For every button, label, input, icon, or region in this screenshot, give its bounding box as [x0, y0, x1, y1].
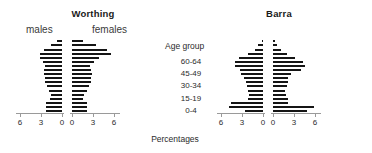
- age-group-tick-label: 30-34: [171, 81, 211, 90]
- bar-male: [50, 98, 62, 100]
- bar-female: [72, 90, 87, 92]
- bar-male: [248, 53, 263, 55]
- age-group-tick-label: 45-49: [171, 69, 211, 78]
- bar-female: [273, 49, 281, 51]
- bar-male: [258, 44, 263, 46]
- bar-male: [245, 110, 263, 112]
- bar-male: [244, 77, 263, 79]
- bar-male: [247, 85, 263, 87]
- bar-male: [46, 106, 62, 108]
- bar-male: [240, 69, 263, 71]
- bar-male: [241, 73, 263, 75]
- bar-male: [44, 73, 62, 75]
- axis-tick-label: 6: [214, 118, 228, 127]
- axis-tick-label: 3: [287, 118, 301, 127]
- bar-male: [246, 81, 264, 83]
- axis-tick-label: 6: [13, 118, 27, 127]
- bar-male: [51, 44, 62, 46]
- age-group-tick-label: 60-64: [171, 57, 211, 66]
- panel-barra: Barra 603306: [186, 0, 372, 153]
- axis-line: [271, 113, 321, 114]
- bar-female: [72, 53, 111, 55]
- axis-tick-label: 6: [308, 118, 322, 127]
- bar-male: [235, 61, 263, 63]
- axis-tick: [93, 114, 94, 117]
- bar-female: [273, 110, 307, 112]
- age-group-tick-label: 15-19: [171, 94, 211, 103]
- bar-male: [46, 102, 62, 104]
- bar-female: [273, 69, 301, 71]
- axis-tick: [294, 114, 295, 117]
- bar-female: [273, 77, 288, 79]
- bar-male: [46, 110, 62, 112]
- bar-male: [49, 90, 62, 92]
- axis-tick-label: 0: [256, 118, 270, 127]
- axis-tick: [72, 114, 73, 117]
- axis-tick: [263, 114, 264, 117]
- bar-male: [249, 94, 263, 96]
- bar-male: [45, 81, 63, 83]
- bar-female: [72, 81, 91, 83]
- bar-male: [262, 40, 263, 42]
- bar-male: [51, 94, 62, 96]
- bar-female: [273, 85, 287, 87]
- x-axis-label: Percentages: [139, 134, 211, 144]
- axis-tick: [41, 114, 42, 117]
- bar-female: [72, 69, 91, 71]
- bar-male: [47, 85, 62, 87]
- bar-female: [273, 53, 287, 55]
- bar-female: [273, 65, 305, 67]
- bar-male: [248, 90, 263, 92]
- bar-male: [40, 53, 62, 55]
- age-group-title: Age group: [165, 41, 204, 51]
- plot-area-barra: 603306: [186, 0, 372, 153]
- panel-worthing: Worthing males females 603306: [0, 0, 186, 153]
- bar-female: [273, 81, 288, 83]
- bar-female: [273, 98, 288, 100]
- plot-area-worthing: 603306: [0, 0, 186, 153]
- bar-female: [273, 94, 286, 96]
- bar-female: [273, 40, 275, 42]
- bar-female: [72, 44, 96, 46]
- bar-female: [72, 61, 94, 63]
- axis-line: [217, 113, 265, 114]
- axis-tick: [221, 114, 222, 117]
- axis-tick: [242, 114, 243, 117]
- axis-tick: [62, 114, 63, 117]
- bar-female: [72, 57, 99, 59]
- bar-female: [72, 85, 89, 87]
- bar-male: [231, 102, 263, 104]
- axis-tick: [114, 114, 115, 117]
- axis-tick-label: 3: [235, 118, 249, 127]
- axis-line: [70, 113, 120, 114]
- bar-female: [72, 94, 84, 96]
- bar-female: [72, 98, 83, 100]
- bar-female: [72, 40, 83, 42]
- bar-female: [273, 73, 291, 75]
- bar-male: [44, 49, 62, 51]
- bar-female: [273, 44, 277, 46]
- axis-tick-label: 6: [107, 118, 121, 127]
- bar-male: [45, 77, 63, 79]
- axis-tick: [273, 114, 274, 117]
- bar-male: [235, 65, 263, 67]
- bar-male: [40, 57, 62, 59]
- bar-female: [72, 106, 87, 108]
- bar-male: [57, 40, 62, 42]
- bar-female: [273, 106, 314, 108]
- bar-female: [273, 102, 288, 104]
- bar-female: [273, 61, 303, 63]
- axis-tick: [315, 114, 316, 117]
- bar-male: [229, 106, 263, 108]
- bar-female: [72, 77, 91, 79]
- bar-female: [72, 49, 107, 51]
- axis-tick: [20, 114, 21, 117]
- bar-female: [72, 102, 87, 104]
- bar-female: [273, 90, 285, 92]
- axis-tick-label: 3: [34, 118, 48, 127]
- axis-line: [16, 113, 64, 114]
- bar-male: [44, 69, 62, 71]
- axis-tick-label: 0: [55, 118, 69, 127]
- age-group-tick-label: 0-4: [171, 106, 211, 115]
- bar-male: [43, 61, 62, 63]
